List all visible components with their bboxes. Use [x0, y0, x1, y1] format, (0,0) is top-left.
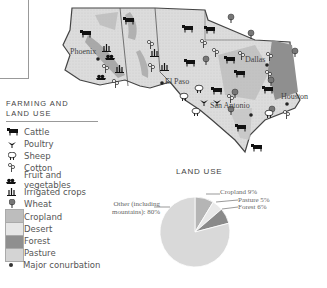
land-label-desert: Desert — [24, 223, 62, 235]
legend-divider — [6, 121, 98, 122]
city-label-houston: Houston — [281, 92, 308, 101]
legend-item-conurbation: Major conurbation — [6, 260, 100, 270]
legend-label: Cattle — [24, 127, 49, 137]
legend-title-line1: FARMING AND — [6, 99, 69, 109]
legend-title-line2: LAND USE — [6, 109, 69, 119]
pie-label-cropland: Cropland 9% — [220, 188, 257, 196]
land-type-swatches — [5, 209, 23, 262]
sheep-icon — [6, 151, 18, 161]
poultry-icon — [6, 139, 18, 149]
pie-label-other-line1: Other (including — [112, 200, 160, 208]
land-label-cropland: Cropland — [24, 211, 62, 223]
pie-leader-lines — [150, 190, 250, 230]
legend-label: Wheat — [24, 199, 52, 209]
land-label-pasture: Pasture — [24, 247, 62, 259]
legend-label: Major conurbation — [23, 260, 100, 270]
legend-item-fruit-vegetables: Fruit and vegetables — [6, 174, 110, 186]
legend-label: Irrigated crops — [24, 187, 86, 197]
swatch-cropland — [5, 209, 24, 222]
inset-frame — [0, 0, 29, 79]
legend-item-sheep: Sheep — [6, 150, 110, 162]
legend-title: FARMING AND LAND USE — [6, 99, 69, 119]
land-label-forest: Forest — [24, 235, 62, 247]
pie-label-forest: Forest 6% — [238, 203, 267, 211]
cotton-icon — [6, 163, 18, 173]
city-label-phoenix: Phoenix — [70, 47, 96, 56]
city-label-dallas: Dallas — [245, 55, 265, 64]
land-type-labels: Cropland Desert Forest Pasture — [24, 211, 62, 259]
legend-item-cattle: Cattle — [6, 126, 110, 138]
pie-label-other-line2: mountains): 80% — [112, 208, 160, 216]
fruit-vegetables-icon — [6, 175, 18, 185]
irrigated-crops-icon — [6, 187, 18, 197]
conurbation-dot-icon — [9, 263, 13, 267]
legend-symbols: Cattle Poultry Sheep Cotton Fruit and ve… — [6, 126, 110, 210]
cattle-icon — [6, 127, 18, 137]
city-label-el-paso: El Paso — [165, 77, 189, 86]
pie-label-other: Other (including mountains): 80% — [112, 200, 160, 216]
city-label-san-antonio: San Antonio — [210, 101, 250, 110]
pie-title: LAND USE — [176, 167, 222, 176]
swatch-desert — [5, 222, 24, 235]
legend-label: Sheep — [24, 151, 51, 161]
wheat-icon — [6, 199, 18, 209]
swatch-forest — [5, 235, 24, 248]
legend-label: Poultry — [24, 139, 54, 149]
legend-item-poultry: Poultry — [6, 138, 110, 150]
